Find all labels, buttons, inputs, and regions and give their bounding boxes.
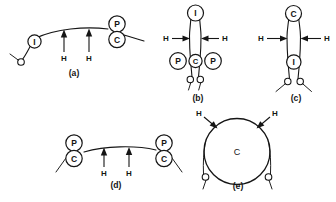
panel-a-node-I-label: I <box>33 37 35 47</box>
panel-d: P C P C H H (d) <box>56 135 182 190</box>
panel-a-node-C-label: C <box>114 35 120 45</box>
panel-d-force-arrow-left <box>101 148 107 168</box>
panel-c-terminal-tail-right <box>303 84 312 92</box>
panel-c-force-arrow-left <box>267 36 288 42</box>
panel-e-terminal-tail-left <box>203 180 206 189</box>
panel-d-strand-arc <box>84 147 156 152</box>
panel-b-strand-right <box>199 16 202 77</box>
panel-b-terminal-tail-left <box>189 83 191 90</box>
panel-d-tail-right <box>172 158 182 172</box>
panel-d-node-P-right-label: P <box>161 138 167 148</box>
panel-c-terminal-tail-left <box>276 84 285 92</box>
panel-b-node-P-right-label: P <box>210 56 216 66</box>
panel-b-force-arrow-left <box>172 36 190 42</box>
panel-e: C H H (e) <box>196 109 278 192</box>
panel-c-node-C-label: C <box>290 9 296 19</box>
panel-a-strand-left <box>22 45 31 60</box>
panel-b-force-arrow-right-head <box>201 36 209 42</box>
panel-c: C I H H (c) <box>258 6 330 104</box>
panel-c-strand-left <box>287 17 290 79</box>
panel-e-force-label-left: H <box>196 109 202 118</box>
diagram-canvas: I P C H H (a) I P C <box>0 0 336 202</box>
panel-a-node-P-label: P <box>114 19 120 29</box>
panel-d-tail-left <box>56 158 66 172</box>
panel-c-force-arrow-right <box>301 36 322 42</box>
panel-a-terminal-tail <box>10 54 18 60</box>
panel-e-force-arrow-right <box>257 117 271 129</box>
panel-a-force-label-right: H <box>86 54 92 63</box>
figure-root: I P C H H (a) I P C <box>0 0 336 202</box>
panel-a: I P C H H (a) <box>10 16 144 78</box>
panel-b-caption: (b) <box>193 93 204 103</box>
panel-a-force-label-left: H <box>61 54 67 63</box>
panel-c-force-label-right: H <box>324 34 330 43</box>
panel-c-force-arrow-left-head <box>280 36 288 42</box>
panel-d-force-arrow-right <box>126 147 132 167</box>
panel-c-caption: (c) <box>291 93 302 103</box>
panel-b-strand-left <box>190 16 193 77</box>
panel-c-force-arrow-right-head <box>301 36 309 42</box>
panel-a-strand-arc <box>36 28 108 38</box>
panel-e-force-arrow-left <box>204 117 218 129</box>
panel-c-node-I-label: I <box>293 57 295 67</box>
panel-b-node-P-left-label: P <box>175 56 181 66</box>
panel-e-terminal-hook-right-icon <box>265 174 272 181</box>
panel-b-terminal-hook-right-icon <box>197 76 203 82</box>
panel-b-force-label-left: H <box>163 34 169 43</box>
panel-b-force-arrow-right <box>201 36 219 42</box>
panel-e-force-label-right: H <box>272 109 278 118</box>
panel-e-terminal-hook-left-icon <box>202 174 209 181</box>
panel-b-terminal-hook-left-icon <box>187 76 193 82</box>
panel-e-node-C-label: C <box>234 147 241 157</box>
panel-d-node-C-right-label: C <box>161 154 167 164</box>
panel-d-force-label-left: H <box>101 169 107 178</box>
panel-d-node-P-left-label: P <box>71 138 77 148</box>
panel-a-force-arrow-right <box>86 29 92 53</box>
panel-a-strand-right <box>124 35 144 41</box>
panel-b-force-label-right: H <box>222 34 228 43</box>
panel-b-node-C-label: C <box>193 57 199 66</box>
panel-d-force-arrow-right-head <box>126 147 132 155</box>
panel-d-force-label-right: H <box>126 169 132 178</box>
panel-d-node-C-left-label: C <box>71 154 77 164</box>
panel-b-node-I-label: I <box>194 8 196 18</box>
panel-e-terminal-tail-right <box>269 180 272 189</box>
panel-d-caption: (d) <box>111 180 122 190</box>
panel-a-terminal-hook-icon <box>18 59 25 66</box>
panel-a-force-arrow-left <box>61 30 67 53</box>
panel-b: I P C P H H (b) <box>163 5 228 103</box>
panel-b-force-arrow-left-head <box>183 36 191 42</box>
panel-e-caption: (e) <box>233 181 244 191</box>
panel-c-force-label-left: H <box>258 34 264 43</box>
panel-a-force-arrow-right-head <box>86 29 92 37</box>
panel-a-caption: (a) <box>69 68 80 78</box>
panel-c-strand-right <box>298 17 301 79</box>
panel-b-terminal-tail-right <box>199 83 201 90</box>
